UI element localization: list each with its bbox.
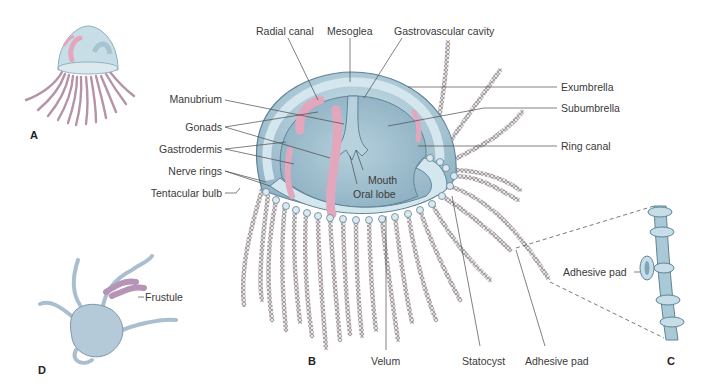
diagram-stage: Radial canal Mesoglea Gastrovascular cav… [0,0,707,391]
label-nerve-rings: Nerve rings [168,165,222,177]
label-exumbrella: Exumbrella [561,81,614,93]
label-subumbrella: Subumbrella [561,102,620,114]
label-frustule: Frustule [145,291,183,303]
label-tentacular-bulb: Tentacular bulb [151,187,222,199]
panel-label-d: D [38,364,46,376]
label-adhesive-pad-b: Adhesive pad [525,355,589,367]
label-adhesive-pad-c: Adhesive pad [563,266,627,278]
label-mouth: Mouth [368,174,397,186]
label-manubrium: Manubrium [169,93,222,105]
label-ring-canal: Ring canal [561,140,611,152]
label-statocyst: Statocyst [462,355,505,367]
panel-label-b: B [308,355,316,367]
label-velum: Velum [371,355,400,367]
label-gonads: Gonads [185,121,222,133]
label-gastrovascular-cavity: Gastrovascular cavity [394,25,494,37]
panel-label-a: A [30,129,38,141]
label-radial-canal: Radial canal [256,25,314,37]
label-mesoglea: Mesoglea [327,25,373,37]
panel-d-polyp-frustule [40,256,176,363]
panel-label-c: C [667,355,675,367]
label-gastrodermis: Gastrodermis [159,143,222,155]
panel-a-medusa [26,26,134,125]
label-oral-lobe: Oral lobe [353,188,396,200]
